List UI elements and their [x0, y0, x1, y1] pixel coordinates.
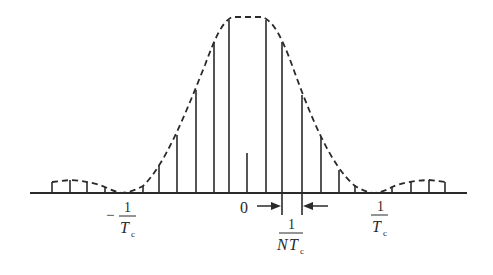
pos-den-t: T [372, 218, 382, 235]
one-over-tc-label: 1 T c [371, 199, 388, 238]
spacing-den-sub: c [300, 246, 304, 256]
pos-den-sub: c [383, 228, 387, 238]
neg-sign: − [106, 207, 114, 223]
envelope-curve [52, 17, 445, 193]
spacing-den-t: T [289, 236, 299, 253]
origin-label: 0 [240, 199, 248, 216]
neg-den-sub: c [131, 229, 135, 239]
neg-num: 1 [124, 200, 131, 215]
neg-one-over-tc-label: − 1 T c [106, 200, 136, 239]
one-over-ntc-label: 1 N T c [276, 217, 304, 256]
pos-num: 1 [377, 199, 384, 214]
arrow-left-icon [303, 202, 328, 210]
spectral-lines [52, 20, 445, 193]
spectrum-diagram: 0 − 1 T c 1 T c 1 N T c [0, 0, 493, 275]
arrow-right-icon [257, 202, 281, 210]
neg-den-t: T [120, 219, 130, 236]
spacing-den-n: N [276, 236, 289, 253]
spacing-num: 1 [288, 217, 295, 232]
